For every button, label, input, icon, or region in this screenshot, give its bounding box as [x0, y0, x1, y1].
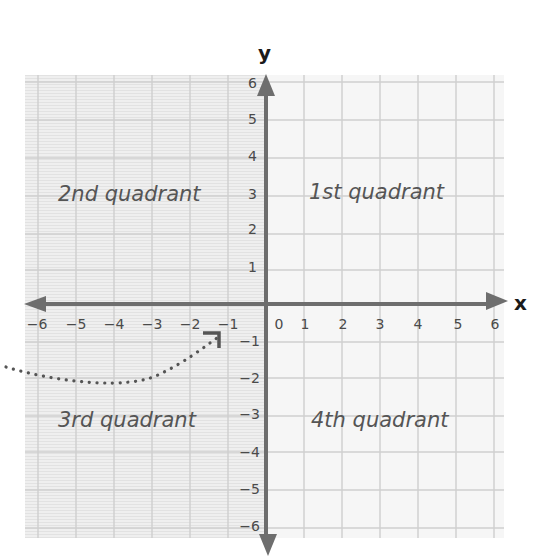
- origin-label: 0: [275, 316, 284, 332]
- coordinate-plane: y x −6 −5 −4 −3 −2 −1 0 1 2 3 4 5 6 6 5 …: [0, 0, 542, 558]
- quadrant-label-fourth: 4th quadrant: [311, 408, 449, 432]
- y-tick: 4: [248, 148, 257, 164]
- x-axis-label: x: [514, 291, 527, 315]
- x-tick: −1: [218, 316, 239, 332]
- y-tick: −1: [239, 333, 260, 349]
- quadrant-label-second: 2nd quadrant: [58, 182, 201, 206]
- quadrant-label-third: 3rd quadrant: [58, 408, 197, 432]
- paper-right-half: [266, 75, 504, 538]
- x-tick: −5: [66, 316, 87, 332]
- y-tick: −5: [239, 481, 260, 497]
- y-tick: 2: [248, 221, 257, 237]
- x-tick: −3: [142, 316, 163, 332]
- y-tick: 1: [248, 259, 257, 275]
- x-tick: 4: [414, 316, 423, 332]
- y-tick: 3: [248, 186, 257, 202]
- y-tick: −6: [239, 518, 260, 534]
- x-tick: 1: [301, 316, 310, 332]
- x-tick: 2: [339, 316, 348, 332]
- x-tick: 6: [491, 316, 500, 332]
- paper-left-half: [25, 75, 266, 538]
- y-tick: −2: [239, 370, 260, 386]
- y-tick: −3: [239, 406, 260, 422]
- quadrant-label-first: 1st quadrant: [309, 180, 445, 204]
- x-tick: −2: [180, 316, 201, 332]
- x-tick: 5: [454, 316, 463, 332]
- x-tick: −6: [27, 316, 48, 332]
- y-tick: 6: [248, 75, 257, 91]
- x-tick: −4: [104, 316, 125, 332]
- y-axis-down-arrow-icon: [259, 534, 277, 556]
- y-tick: −4: [239, 444, 260, 460]
- y-axis-label: y: [258, 41, 271, 65]
- x-tick: 3: [376, 316, 385, 332]
- y-tick: 5: [248, 111, 257, 127]
